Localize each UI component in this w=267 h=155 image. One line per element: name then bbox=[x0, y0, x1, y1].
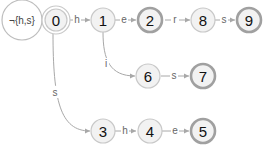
edge-0-1: h bbox=[70, 14, 90, 26]
node-9-accepting: 9 bbox=[237, 8, 261, 32]
edge-label: h bbox=[74, 14, 80, 25]
node-3: 3 bbox=[91, 119, 115, 143]
edge-0-3: s bbox=[51, 33, 90, 131]
node-2-accepting: 2 bbox=[138, 8, 162, 32]
edge-8-9: s bbox=[215, 14, 235, 26]
node-label: 9 bbox=[245, 12, 253, 29]
node-label: 5 bbox=[199, 123, 207, 140]
node-label: 8 bbox=[199, 12, 207, 29]
node-5-accepting: 5 bbox=[191, 119, 215, 143]
edge-label: e bbox=[172, 125, 178, 136]
node-label: 0 bbox=[52, 12, 60, 29]
edge-2-8: r bbox=[165, 14, 190, 26]
edge-label: s bbox=[222, 14, 227, 25]
node-1: 1 bbox=[91, 8, 115, 32]
node-8: 8 bbox=[191, 8, 215, 32]
node-label: 4 bbox=[146, 123, 154, 140]
node-0-start: 0 bbox=[42, 6, 70, 34]
edge-label: h bbox=[122, 125, 128, 136]
node-label: 2 bbox=[146, 12, 154, 29]
node-label: 1 bbox=[99, 12, 107, 29]
node-6: 6 bbox=[136, 64, 160, 88]
automaton-diagram: ¬{h,s} h e r s i s s h bbox=[0, 0, 267, 155]
edge-label: s bbox=[172, 70, 177, 81]
edge-0-0: ¬{h,s} bbox=[2, 0, 42, 40]
node-label: 6 bbox=[144, 68, 152, 85]
edge-1-2: e bbox=[115, 14, 136, 26]
edge-label: ¬{h,s} bbox=[9, 15, 36, 26]
edge-label: s bbox=[53, 87, 58, 98]
edge-6-7: s bbox=[161, 70, 189, 82]
node-4: 4 bbox=[138, 119, 162, 143]
edge-4-5: e bbox=[162, 125, 189, 137]
edge-label: e bbox=[121, 14, 127, 25]
node-label: 7 bbox=[199, 68, 207, 85]
node-7-accepting: 7 bbox=[191, 64, 215, 88]
node-label: 3 bbox=[99, 123, 107, 140]
edge-1-6: i bbox=[103, 32, 135, 76]
edge-3-4: h bbox=[115, 125, 136, 137]
edge-label: i bbox=[105, 58, 107, 69]
